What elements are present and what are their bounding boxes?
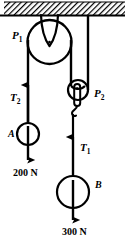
pulley-p1-axle xyxy=(48,41,51,44)
label-body-a: A xyxy=(8,129,15,139)
ceiling-support xyxy=(0,2,125,16)
label-pulley-p1-letter: P xyxy=(12,29,19,41)
pulley-system-figure: P1 P2 T2 T1 A B 200 N 300 N xyxy=(0,0,125,236)
label-tension-t1: T1 xyxy=(80,142,90,156)
label-body-b: B xyxy=(95,180,102,190)
label-tension-t1-letter: T xyxy=(80,141,87,153)
label-pulley-p2-letter: P xyxy=(94,87,101,99)
label-tension-t2: T2 xyxy=(10,92,20,106)
label-tension-t2-subscript: 2 xyxy=(17,97,21,106)
label-pulley-p2-subscript: 2 xyxy=(101,93,105,102)
label-tension-t2-letter: T xyxy=(10,91,17,103)
label-pulley-p1-subscript: 1 xyxy=(19,35,23,44)
body-b xyxy=(57,176,89,220)
pulley-p2-wheel xyxy=(68,80,88,100)
pulley-p2-axle xyxy=(76,87,78,89)
weight-label-a: 200 N xyxy=(13,168,38,178)
ceiling-hatching xyxy=(4,2,125,15)
pulley-p1 xyxy=(28,20,72,64)
label-tension-t1-subscript: 1 xyxy=(87,147,91,156)
body-a xyxy=(17,123,39,160)
label-pulley-p1: P1 xyxy=(12,30,22,44)
label-pulley-p2: P2 xyxy=(94,88,104,102)
weight-label-b: 300 N xyxy=(62,227,87,236)
